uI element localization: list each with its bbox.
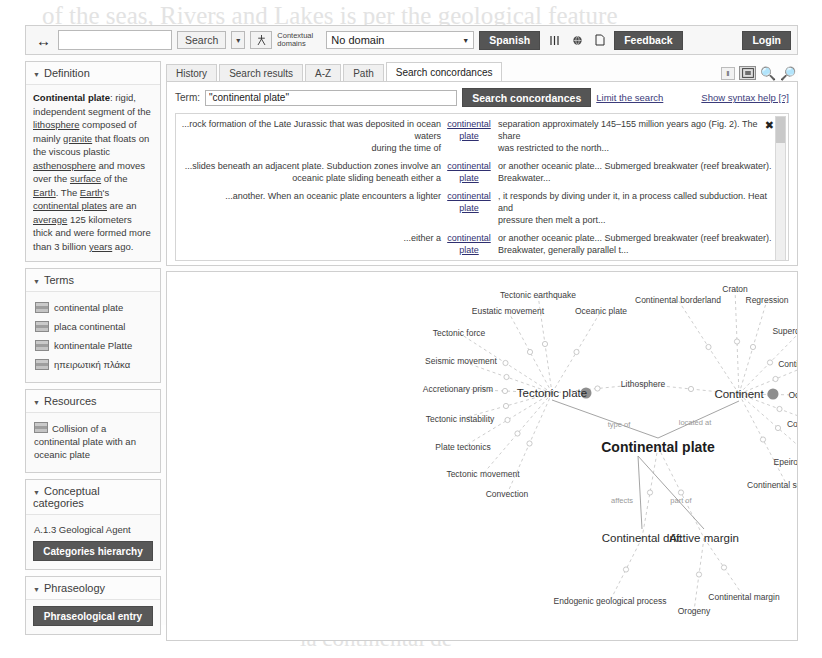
term-input[interactable]: [205, 90, 457, 106]
map-node-tectonic-earthquake[interactable]: Tectonic earthquake: [500, 290, 576, 300]
domain-select[interactable]: No domain ▼: [326, 31, 474, 49]
map-node-regression[interactable]: Regression: [746, 295, 789, 305]
concordance-row[interactable]: ...rock formation of the Late Jurassic t…: [180, 118, 772, 154]
concordance-row[interactable]: ...another. When an oceanic plate encoun…: [180, 190, 772, 226]
show-syntax-help-link[interactable]: Show syntax help [?]: [701, 92, 789, 103]
map-node-lithosphere[interactable]: Lithosphere: [621, 379, 665, 389]
map-node-continental-plate[interactable]: Continental plate: [601, 439, 715, 455]
definition-link[interactable]: years: [89, 241, 112, 252]
back-forward-arrows-icon[interactable]: ↔: [32, 32, 53, 49]
columns-icon[interactable]: [545, 35, 563, 46]
kwic-left-line2: during the time of: [180, 142, 441, 154]
search-concordances-button[interactable]: Search concordances: [462, 88, 591, 107]
map-node-plate-tectonics[interactable]: Plate tectonics: [435, 442, 490, 452]
definition-link[interactable]: average: [33, 214, 67, 225]
kwic-right-line1: or another oceanic plate... Submerged br…: [498, 233, 772, 243]
search-options-caret-icon[interactable]: ▾: [231, 31, 245, 49]
term-list-item[interactable]: continental plate: [33, 298, 153, 317]
map-node-tectonic-force[interactable]: Tectonic force: [433, 328, 485, 338]
map-node-endogenic-process[interactable]: Endogenic geological process: [554, 596, 667, 606]
phraseological-entry-button[interactable]: Phraseological entry: [33, 606, 153, 626]
phraseology-panel: ▼Phraseology Phraseological entry: [25, 576, 161, 635]
map-node-craton[interactable]: Craton: [722, 284, 748, 294]
map-relation-label: part of: [670, 496, 691, 505]
map-node-active-margin[interactable]: Active margin: [669, 532, 739, 544]
definition-link[interactable]: granite: [63, 133, 92, 144]
fit-to-screen-icon[interactable]: [739, 66, 756, 80]
tab-search-results[interactable]: Search results: [219, 64, 303, 81]
map-node-eustatic-movement[interactable]: Eustatic movement: [472, 306, 544, 316]
map-node-continental-sediment[interactable]: Continental sediment: [747, 480, 798, 490]
map-node-continent[interactable]: Continent: [714, 388, 763, 400]
map-relation-edge: [552, 400, 658, 438]
map-node-continental-water[interactable]: Continental water: [787, 419, 798, 429]
zoom-in-icon[interactable]: 🔍: [760, 67, 776, 80]
concordance-row[interactable]: ...slides beneath an adjacent plate. Sub…: [180, 160, 772, 184]
conceptual-categories-header[interactable]: ▼Conceptual categories: [26, 480, 160, 514]
definition-body: : rigid, independent segment of the lith…: [33, 92, 151, 252]
term-label: Term:: [175, 92, 200, 103]
tab-history[interactable]: History: [166, 64, 217, 81]
concordance-results: ...rock formation of the Late Jurassic t…: [175, 113, 789, 261]
map-node-tectonic-instability[interactable]: Tectonic instability: [426, 414, 495, 424]
map-edge-midpoint: [777, 406, 782, 411]
kwic-right-context: separation approximately 145–155 million…: [495, 118, 772, 154]
term-list-item[interactable]: kontinentale Platte: [33, 336, 153, 355]
map-node-continental-island[interactable]: Continental island: [778, 359, 798, 369]
term-list-item[interactable]: ηπειρωτική πλάκα: [33, 355, 153, 374]
map-node-continental-borderland[interactable]: Continental borderland: [635, 295, 721, 305]
definition-panel-header[interactable]: ▼Definition: [26, 62, 160, 84]
page-icon[interactable]: [591, 34, 609, 46]
resources-panel-title: Resources: [44, 395, 97, 407]
person-icon[interactable]: [250, 31, 272, 49]
kwic-keyword-line2: plate: [443, 130, 495, 142]
map-node-convection[interactable]: Convection: [486, 489, 529, 499]
map-node-tectonic-plate[interactable]: Tectonic plate: [517, 387, 587, 399]
definition-link[interactable]: asthenosphere: [33, 160, 96, 171]
kwic-left-line2: oceanic plate sliding beneath either a: [180, 172, 441, 184]
search-button[interactable]: Search: [177, 31, 226, 49]
map-node-ocean[interactable]: Ocean: [788, 390, 798, 400]
map-node-supercontinent[interactable]: Supercontinent: [772, 326, 798, 336]
term-list-item[interactable]: placa continental: [33, 317, 153, 336]
definition-link[interactable]: continental plates: [33, 200, 107, 211]
definition-link[interactable]: Earth: [33, 187, 56, 198]
terms-panel-header[interactable]: ▼Terms: [26, 269, 160, 291]
kwic-keyword[interactable]: continentalplate: [443, 232, 495, 256]
language-button[interactable]: Spanish: [479, 31, 540, 50]
login-button[interactable]: Login: [742, 31, 791, 50]
kwic-keyword[interactable]: continentalplate: [443, 190, 495, 226]
tab-search-concordances[interactable]: Search concordances: [386, 62, 503, 81]
phraseology-header[interactable]: ▼Phraseology: [26, 577, 160, 599]
map-node-orogeny[interactable]: Orogeny: [678, 606, 711, 616]
map-hub-node[interactable]: [768, 389, 779, 400]
concordance-row[interactable]: ...either acontinentalplateor another oc…: [180, 232, 772, 256]
limit-the-search-link[interactable]: Limit the search: [596, 92, 663, 103]
definition-link[interactable]: Earth: [80, 187, 103, 198]
globe-icon[interactable]: [568, 35, 586, 46]
map-node-epeirogenic-movement[interactable]: Epeirogenic movement: [774, 457, 798, 467]
kwic-keyword[interactable]: continentalplate: [443, 118, 495, 154]
tab-a-z[interactable]: A-Z: [305, 64, 341, 81]
search-input[interactable]: [58, 30, 172, 50]
categories-hierarchy-button[interactable]: Categories hierarchy: [33, 541, 153, 561]
resources-panel-header[interactable]: ▼Resources: [26, 390, 160, 412]
pin-button[interactable]: ‖: [721, 67, 735, 80]
scrollbar-thumb[interactable]: [776, 117, 785, 143]
definition-link[interactable]: surface: [70, 173, 101, 184]
kwic-keyword[interactable]: continentalplate: [443, 160, 495, 184]
map-node-tectonic-movement[interactable]: Tectonic movement: [446, 469, 519, 479]
concept-map[interactable]: Tectonic earthquakeEustatic movementOcea…: [166, 271, 798, 641]
left-sidebar: ▼Definition Continental plate: rigid, in…: [25, 61, 161, 641]
map-node-continental-margin[interactable]: Continental margin: [708, 592, 779, 602]
map-node-oceanic-plate[interactable]: Oceanic plate: [575, 306, 627, 316]
tab-path[interactable]: Path: [343, 64, 384, 81]
close-icon[interactable]: ✖: [765, 119, 774, 132]
zoom-out-icon[interactable]: 🔎: [780, 67, 796, 80]
resource-list-item[interactable]: Collision of a continental plate with an…: [33, 419, 153, 464]
map-node-accretionary-prism[interactable]: Accretionary prism: [423, 384, 493, 394]
map-node-seismic-movement[interactable]: Seismic movement: [425, 356, 497, 366]
concordance-scrollbar[interactable]: [775, 116, 786, 261]
feedback-button[interactable]: Feedback: [614, 31, 682, 50]
definition-link[interactable]: lithosphere: [33, 119, 79, 130]
